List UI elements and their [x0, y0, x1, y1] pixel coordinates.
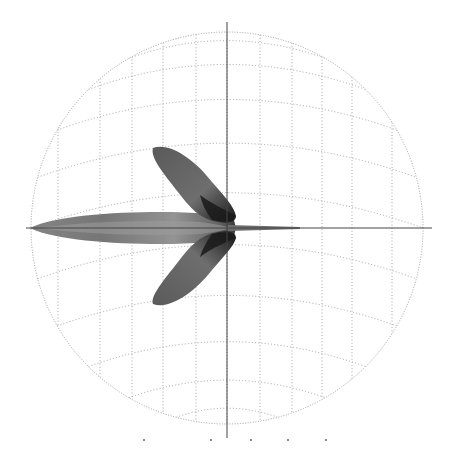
- bottom-mark: [325, 439, 327, 441]
- bottom-marks: [143, 439, 327, 441]
- bottom-mark: [250, 439, 252, 441]
- sphere-plot: [0, 0, 455, 464]
- bottom-mark: [143, 439, 145, 441]
- bottom-mark: [287, 439, 289, 441]
- upper-wing-lobe: [153, 147, 236, 223]
- bottom-mark: [210, 439, 212, 441]
- sphere-radiation-pattern-figure: [0, 0, 455, 464]
